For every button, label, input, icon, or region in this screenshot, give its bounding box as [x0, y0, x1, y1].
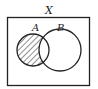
set-a-label: A	[31, 22, 39, 33]
venn-svg: X A B	[0, 0, 98, 89]
venn-diagram: X A B	[0, 0, 98, 89]
universe-label: X	[44, 4, 54, 17]
set-b-label: B	[56, 22, 64, 33]
